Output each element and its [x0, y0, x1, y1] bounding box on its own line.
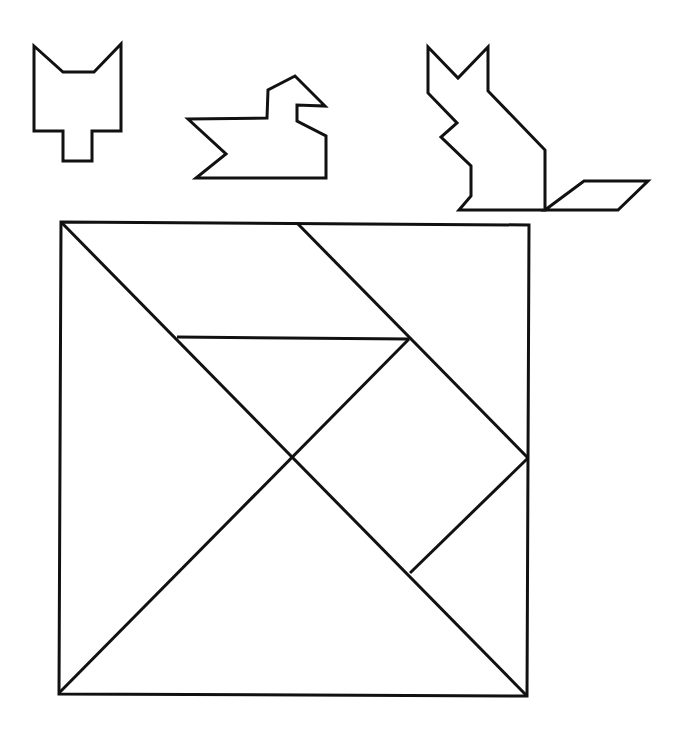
- horizontal-line: [177, 337, 409, 339]
- upper-parallelogram-line: [297, 223, 528, 458]
- duck-figure: [188, 76, 326, 178]
- cat-tail-figure: [545, 181, 648, 210]
- main-diagonal-line: [61, 222, 527, 696]
- anti-diagonal-line: [59, 339, 409, 693]
- square-piece-line: [410, 458, 528, 573]
- tangram-diagram: [0, 0, 683, 732]
- cat-head-figure: [34, 44, 121, 161]
- sitting-cat-figure: [428, 47, 545, 210]
